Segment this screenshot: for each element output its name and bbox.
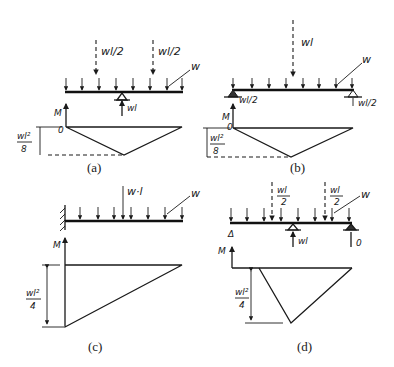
panel-caption: (b) [290, 160, 305, 175]
moment-axis-label: M [54, 108, 62, 118]
w-leader-line [169, 70, 190, 86]
panel-caption: (c) [88, 339, 102, 354]
panel-c: w·l w M wl² 4 (c) [26, 185, 200, 354]
load-label-right-den: 2 [334, 197, 340, 207]
distributed-load-label: w [361, 188, 370, 201]
distributed-load-label: w [191, 60, 200, 73]
load-label-left: wl/2 [101, 45, 124, 58]
panel-caption: (d) [297, 339, 312, 354]
origin-label: 0 [227, 122, 233, 132]
right-reaction-label: wl/2 [358, 98, 377, 108]
moment-triangle [65, 265, 182, 327]
w-leader-line [167, 196, 190, 214]
panel-caption: (a) [87, 160, 101, 175]
moment-axis-label: M [218, 246, 226, 256]
middle-reaction-label: wl [298, 236, 308, 246]
load-label-left-num: wl [277, 185, 287, 195]
moment-triangle [66, 127, 182, 155]
max-moment-numerator: wl² [26, 288, 40, 298]
reaction-label: wl [127, 103, 137, 113]
load-label-right-num: wl [330, 185, 340, 195]
load-label-center: w·l [127, 185, 143, 198]
distributed-load-arrows [231, 208, 349, 221]
max-moment-denominator: 4 [239, 300, 245, 310]
load-label-center: wl [301, 36, 313, 49]
max-moment-numerator: wl² [17, 131, 31, 141]
distributed-load-arrows [66, 78, 182, 90]
w-leader-line [338, 63, 362, 84]
moment-axis-label: M [222, 112, 230, 122]
load-label-left-den: 2 [281, 197, 287, 207]
moment-axis-label: M [53, 240, 61, 250]
max-moment-denominator: 8 [213, 146, 219, 156]
right-pin-support-icon [346, 224, 356, 230]
max-moment-denominator: 4 [30, 301, 36, 311]
max-moment-numerator: wl² [235, 287, 249, 297]
moment-triangle [259, 268, 352, 323]
distributed-load-label: w [362, 53, 371, 66]
free-end-marker: Δ [227, 229, 234, 239]
moment-triangle [233, 128, 353, 157]
fixed-wall-icon [60, 205, 65, 231]
origin-label: 0 [58, 125, 64, 135]
left-reaction-label: wl/2 [239, 95, 258, 105]
panel-a: wl/2 wl/2 w wl M 0 wl² 8 (a [17, 40, 200, 175]
distributed-load-arrows [233, 78, 352, 88]
max-moment-denominator: 8 [21, 144, 27, 154]
beam-moment-diagram-figure: wl/2 wl/2 w wl M 0 wl² 8 (a [0, 0, 394, 367]
panel-b: wl w wl/2 wl/2 M 0 wl² 8 (b) [203, 20, 377, 175]
distributed-load-label: w [191, 187, 200, 200]
panel-d: wl 2 wl 2 w wl 0 Δ M wl [218, 182, 370, 354]
max-moment-numerator: wl² [210, 133, 224, 143]
middle-pin-support-icon [288, 224, 298, 230]
distributed-load-arrows [80, 207, 182, 219]
pin-support-icon [117, 93, 127, 100]
right-reaction-label: 0 [356, 238, 362, 248]
load-label-right: wl/2 [158, 45, 181, 58]
